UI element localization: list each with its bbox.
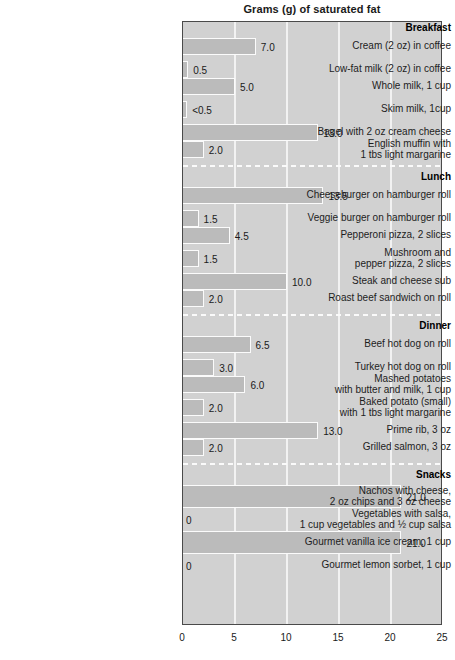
bar-value-label: 6.5 bbox=[256, 341, 270, 351]
x-tick-label-15: 15 bbox=[332, 632, 343, 643]
x-tick-label-5: 5 bbox=[231, 632, 237, 643]
x-tick-label-10: 10 bbox=[280, 632, 291, 643]
category-label: Skim milk, 1cup bbox=[277, 103, 455, 115]
section-separator-snacks bbox=[183, 463, 441, 465]
bar-value-label: 5.0 bbox=[240, 83, 254, 93]
bar bbox=[182, 38, 256, 55]
category-label: Prime rib, 3 oz bbox=[277, 424, 455, 436]
bar bbox=[182, 439, 204, 456]
bar bbox=[182, 359, 214, 376]
category-label: Low-fat milk (2 oz) in coffee bbox=[277, 63, 455, 75]
category-label: Mashed potatoes with butter and milk, 1 … bbox=[277, 373, 455, 396]
bar-value-label: 2.0 bbox=[209, 295, 223, 305]
bar bbox=[182, 399, 204, 416]
bar-value-label: 1.5 bbox=[204, 255, 218, 265]
category-label: Grilled salmon, 3 oz bbox=[277, 441, 455, 453]
category-label: Veggie burger on hamburger roll bbox=[277, 212, 455, 224]
bar-value-label: 0 bbox=[186, 516, 192, 526]
bar-value-label: 7.0 bbox=[261, 43, 275, 53]
category-label: Turkey hot dog on roll bbox=[277, 361, 455, 373]
bar bbox=[182, 101, 187, 118]
category-label: Bagel with 2 oz cream cheese bbox=[277, 126, 455, 138]
bar bbox=[182, 210, 199, 227]
bar-value-label: 2.0 bbox=[209, 404, 223, 414]
chart-figure: Grams (g) of saturated fat 7.00.55.0<0.5… bbox=[0, 0, 455, 660]
bar bbox=[182, 250, 199, 267]
category-label: Nachos with cheese, 2 oz chips and 3 oz … bbox=[277, 485, 455, 508]
section-header-lunch: Lunch bbox=[277, 171, 455, 183]
bar bbox=[182, 78, 235, 95]
category-label: Baked potato (small) with 1 tbs light ma… bbox=[277, 396, 455, 419]
category-label: Gourmet lemon sorbet, 1 cup bbox=[277, 559, 455, 571]
x-axis: 0510152025 bbox=[182, 626, 442, 648]
category-label: English muffin with 1 tbs light margarin… bbox=[277, 138, 455, 161]
bar bbox=[182, 61, 188, 78]
category-label: Pepperoni pizza, 2 slices bbox=[277, 229, 455, 241]
bar-value-label: 0 bbox=[186, 562, 192, 572]
bar-value-label: 1.5 bbox=[204, 215, 218, 225]
bar bbox=[182, 273, 287, 290]
x-tick-label-20: 20 bbox=[384, 632, 395, 643]
bar bbox=[182, 336, 251, 353]
bar-value-label: 6.0 bbox=[250, 381, 264, 391]
category-label: Beef hot dog on roll bbox=[277, 338, 455, 350]
category-label: Cheeseburger on hamburger roll bbox=[277, 189, 455, 201]
x-tick-label-25: 25 bbox=[436, 632, 447, 643]
category-label: Whole milk, 1 cup bbox=[277, 80, 455, 92]
bar bbox=[182, 141, 204, 158]
bar bbox=[182, 376, 245, 393]
bar bbox=[182, 227, 230, 244]
category-label: Mushroom and pepper pizza, 2 slices bbox=[277, 247, 455, 270]
bar-value-label: <0.5 bbox=[192, 106, 212, 116]
category-label: Cream (2 oz) in coffee bbox=[277, 40, 455, 52]
category-label: Vegetables with salsa, 1 cup vegetables … bbox=[277, 508, 455, 531]
bar-value-label: 0.5 bbox=[193, 66, 207, 76]
category-label: Steak and cheese sub bbox=[277, 275, 455, 287]
section-header-snacks: Snacks bbox=[277, 469, 455, 481]
section-header-breakfast: Breakfast bbox=[277, 22, 455, 34]
category-label: Roast beef sandwich on roll bbox=[277, 292, 455, 304]
bar-value-label: 3.0 bbox=[219, 364, 233, 374]
bar-value-label: 2.0 bbox=[209, 444, 223, 454]
bar-value-label: 4.5 bbox=[235, 232, 249, 242]
bar bbox=[182, 290, 204, 307]
category-label: Gourmet vanilla ice cream, 1 cup bbox=[277, 536, 455, 548]
chart-title: Grams (g) of saturated fat bbox=[182, 3, 442, 15]
section-separator-dinner bbox=[183, 314, 441, 316]
section-separator-lunch bbox=[183, 165, 441, 167]
x-tick-label-0: 0 bbox=[179, 632, 185, 643]
bar-value-label: 2.0 bbox=[209, 146, 223, 156]
section-header-dinner: Dinner bbox=[277, 320, 455, 332]
